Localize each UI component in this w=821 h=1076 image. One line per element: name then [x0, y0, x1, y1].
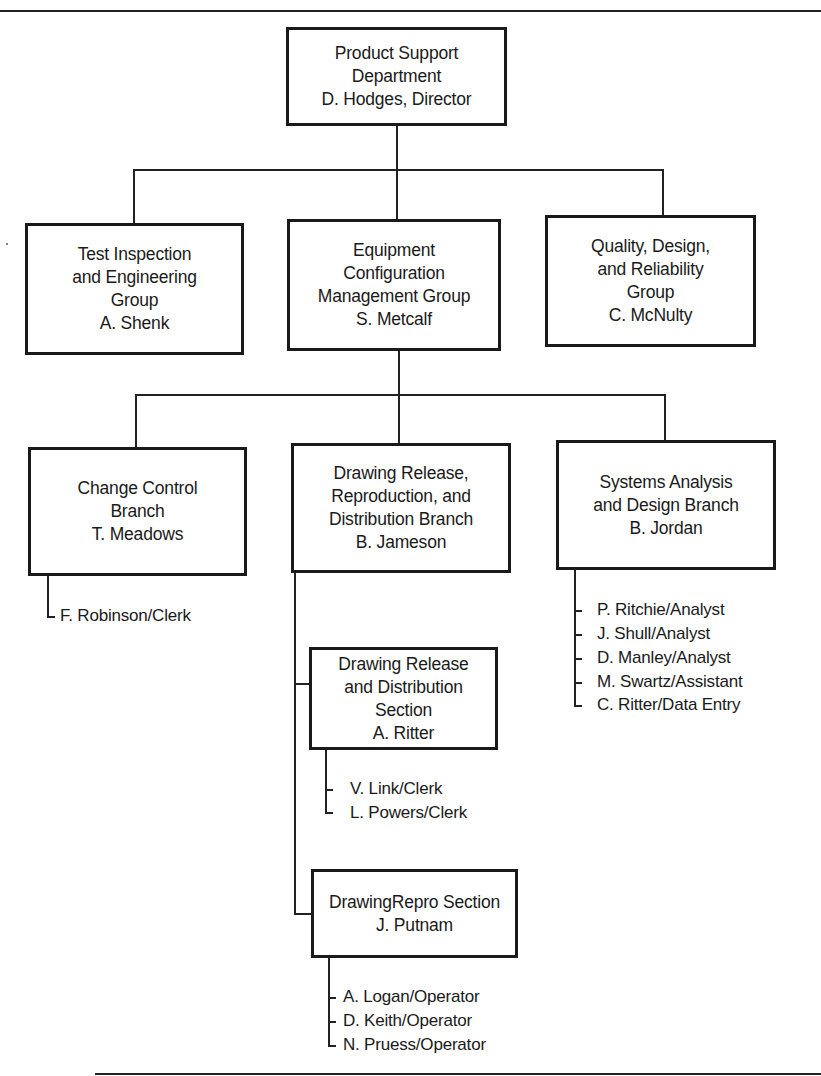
box-line: and Design Branch — [593, 494, 738, 517]
box-line: Group — [111, 289, 159, 312]
box-line: Drawing Release — [338, 653, 468, 676]
staff-entry: N. Pruess/Operator — [343, 1033, 486, 1057]
staff-entry: F. Robinson/Clerk — [60, 604, 191, 628]
org-box-systems-analysis-branch: Systems Analysis and Design Branch B. Jo… — [556, 440, 776, 570]
box-line: Group — [627, 281, 675, 304]
connector-root-down — [396, 126, 398, 220]
org-box-drawing-repro-section: DrawingRepro Section J. Putnam — [311, 869, 518, 958]
staff-entry: M. Swartz/Assistant — [597, 670, 742, 694]
staff-tick — [47, 616, 55, 618]
box-line: Product Support — [335, 42, 458, 65]
box-line: T. Meadows — [92, 523, 183, 546]
org-box-drawing-release-branch: Drawing Release, Reproduction, and Distr… — [291, 443, 511, 573]
staff-entry: V. Link/Clerk — [350, 777, 442, 801]
org-box-product-support-department: Product Support Department D. Hodges, Di… — [286, 27, 507, 126]
box-line: DrawingRepro Section — [329, 891, 500, 914]
connector-to-change-control — [135, 394, 137, 449]
box-line: Branch — [110, 500, 164, 523]
connector-branches-horizontal — [135, 394, 665, 396]
box-line: Section — [375, 699, 432, 722]
connector-release-section-staff — [325, 750, 327, 813]
box-line: C. McNulty — [609, 304, 693, 327]
staff-entry: A. Logan/Operator — [343, 985, 479, 1009]
box-line: Configuration — [343, 262, 445, 285]
box-line: D. Hodges, Director — [322, 88, 472, 111]
staff-tick — [325, 812, 333, 814]
box-line: B. Jameson — [356, 531, 446, 554]
connector-equipment-down — [398, 351, 400, 444]
box-line: A. Shenk — [100, 312, 169, 335]
box-line: A. Ritter — [373, 722, 434, 745]
box-line: and Engineering — [72, 266, 196, 289]
connector-change-control-staff — [47, 576, 49, 617]
box-line: Drawing Release, — [334, 462, 469, 485]
box-line: Management Group — [318, 285, 470, 308]
box-line: Equipment — [353, 239, 435, 262]
connector-to-test-group — [133, 169, 135, 225]
scan-speck — [6, 243, 8, 245]
staff-entry: L. Powers/Clerk — [350, 801, 467, 825]
staff-entry: P. Ritchie/Analyst — [597, 598, 724, 622]
staff-tick — [574, 658, 582, 660]
box-line: Quality, Design, — [591, 235, 710, 258]
org-box-quality-design-group: Quality, Design, and Reliability Group C… — [545, 215, 756, 347]
connector-to-repro-section — [294, 913, 312, 915]
connector-systems-analysis-staff — [574, 570, 576, 706]
box-line: and Distribution — [344, 676, 462, 699]
staff-entry: J. Shull/Analyst — [597, 622, 710, 646]
connector-to-systems-analysis — [664, 394, 666, 442]
org-box-equipment-configuration-group: Equipment Configuration Management Group… — [287, 219, 501, 351]
staff-entry: D. Manley/Analyst — [597, 646, 731, 670]
bottom-page-rule — [95, 1073, 821, 1075]
staff-tick — [574, 634, 582, 636]
box-line: Reproduction, and — [331, 485, 471, 508]
box-line: B. Jordan — [629, 517, 702, 540]
box-line: Change Control — [78, 477, 198, 500]
connector-drawing-release-trunk — [294, 573, 296, 914]
staff-tick — [328, 1045, 336, 1047]
staff-tick — [328, 1021, 336, 1023]
box-line: J. Putnam — [376, 914, 453, 937]
staff-tick — [574, 682, 582, 684]
org-box-change-control-branch: Change Control Branch T. Meadows — [28, 447, 247, 576]
staff-tick — [574, 705, 582, 707]
connector-repro-section-staff — [328, 958, 330, 1046]
box-line: S. Metcalf — [356, 308, 432, 331]
box-line: Systems Analysis — [600, 471, 733, 494]
staff-tick — [574, 610, 582, 612]
connector-to-release-section — [294, 683, 310, 685]
box-line: and Reliability — [598, 258, 704, 281]
staff-entry: C. Ritter/Data Entry — [597, 693, 740, 717]
org-box-test-inspection-group: Test Inspection and Engineering Group A.… — [25, 223, 244, 355]
connector-groups-horizontal — [133, 169, 663, 171]
top-page-rule — [0, 10, 821, 12]
box-line: Distribution Branch — [329, 508, 473, 531]
org-box-release-distribution-section: Drawing Release and Distribution Section… — [309, 647, 498, 750]
connector-to-quality-group — [662, 169, 664, 217]
box-line: Test Inspection — [78, 243, 192, 266]
staff-entry: D. Keith/Operator — [343, 1009, 472, 1033]
staff-tick — [328, 997, 336, 999]
staff-tick — [325, 789, 333, 791]
box-line: Department — [352, 65, 441, 88]
